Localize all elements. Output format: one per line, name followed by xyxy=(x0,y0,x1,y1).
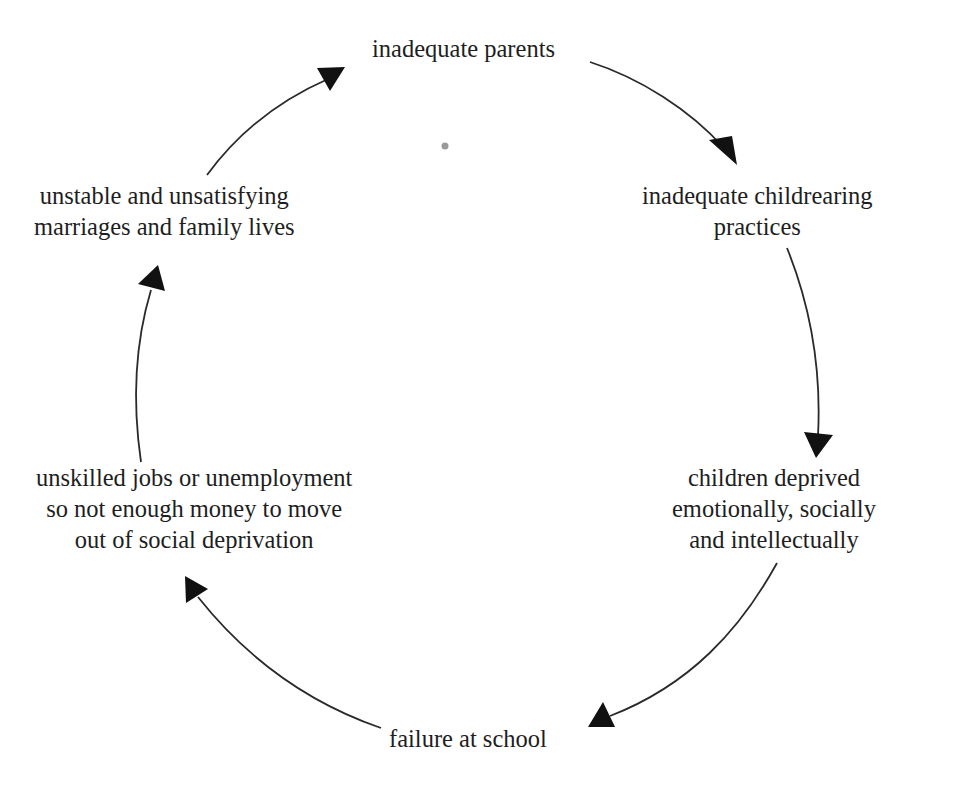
node-label-line: children deprived xyxy=(672,462,876,493)
arrowhead-icon xyxy=(185,576,208,603)
arrow-marriages-to-parents xyxy=(207,67,345,175)
arrowhead-icon xyxy=(138,265,165,291)
node-label-line: out of social deprivation xyxy=(36,524,352,555)
arrow-childrearing-to-deprived xyxy=(787,248,833,458)
node-label-line: emotionally, socially xyxy=(672,493,876,524)
node-label-line: practices xyxy=(642,211,873,242)
node-label-line: unstable and unsatisfying xyxy=(34,180,295,211)
node-label-line: so not enough money to move xyxy=(36,493,352,524)
node-children-deprived: children deprived emotionally, socially … xyxy=(672,462,876,555)
node-unstable-marriages: unstable and unsatisfying marriages and … xyxy=(34,180,295,242)
node-inadequate-parents: inadequate parents xyxy=(372,33,555,64)
arrow-line xyxy=(136,290,151,462)
node-label-line: and intellectually xyxy=(672,524,876,555)
node-label-line: unskilled jobs or unemployment xyxy=(36,462,352,493)
arrow-line xyxy=(610,563,777,716)
node-label-line: inadequate childrearing xyxy=(642,180,873,211)
arrows-layer xyxy=(0,0,955,785)
arrowhead-icon xyxy=(588,702,615,727)
arrowhead-icon xyxy=(709,136,737,165)
arrow-parents-to-childrearing xyxy=(590,62,737,165)
arrow-line xyxy=(787,248,819,436)
node-label-line: marriages and family lives xyxy=(34,211,295,242)
arrow-line xyxy=(207,79,328,175)
node-inadequate-childrearing: inadequate childrearing practices xyxy=(642,180,873,242)
arrow-jobs-to-marriages xyxy=(136,265,165,462)
node-failure-at-school: failure at school xyxy=(389,723,547,754)
stray-dot xyxy=(442,143,449,150)
arrowhead-icon xyxy=(317,67,345,91)
arrow-school-to-jobs xyxy=(185,576,381,728)
arrow-line xyxy=(198,597,381,728)
node-label-line: inadequate parents xyxy=(372,33,555,64)
arrow-deprived-to-school xyxy=(588,563,777,727)
cycle-diagram: inadequate parents inadequate childreari… xyxy=(0,0,955,785)
node-label-line: failure at school xyxy=(389,723,547,754)
arrowhead-icon xyxy=(804,432,833,458)
node-unskilled-jobs: unskilled jobs or unemployment so not en… xyxy=(36,462,352,555)
arrow-line xyxy=(590,62,724,148)
